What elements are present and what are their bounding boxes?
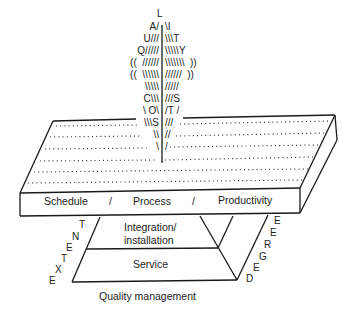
label-process: Process — [133, 196, 171, 207]
degree-letter: G — [259, 252, 267, 262]
extent-letter: N — [72, 232, 79, 242]
ray-row-left: \\\\\ — [145, 82, 159, 92]
slab-back-edge-left — [53, 119, 136, 121]
ray-row-right: ////// )) — [165, 70, 194, 80]
pyramid-base — [72, 280, 237, 282]
label-quality-management: Quality management — [99, 291, 196, 302]
ray-row-left: Q///// — [137, 46, 159, 56]
label-integration: Integration/ — [124, 222, 177, 233]
degree-letter: D — [246, 274, 253, 284]
ray-row-left: A/ — [150, 22, 159, 32]
label-service: Service — [133, 259, 168, 270]
ray-row-right: /T / — [165, 106, 179, 116]
slab-dot-rows — [28, 121, 330, 183]
label-schedule: Schedule — [44, 196, 88, 207]
slab-right-back-vertical — [335, 115, 337, 140]
ray-row-left: \ — [156, 142, 159, 152]
label-productivity: Productivity — [218, 195, 272, 206]
ray-row-right: // — [165, 130, 171, 140]
slab-left-edge — [20, 121, 53, 193]
ray-row-left: \ O\ — [143, 106, 159, 116]
extent-letter: X — [55, 265, 62, 275]
degree-letter: R — [264, 240, 271, 250]
ray-row-right: \\\T — [165, 34, 179, 44]
degree-letter: E — [253, 263, 260, 273]
label-separator: / — [109, 196, 112, 207]
ray-row-left: C\\\ — [143, 94, 159, 104]
pyramid-back-edge — [218, 216, 233, 248]
slab-front-top-edge — [20, 188, 300, 193]
ray-row-right: \I — [165, 22, 171, 32]
label-installation: installation — [124, 235, 174, 246]
ray-row-right: / — [165, 142, 168, 152]
degree-letter: E — [274, 216, 281, 226]
ray-row-right: /// — [165, 118, 173, 128]
ray-row-left: \\\S — [144, 118, 159, 128]
pyramid-divider — [87, 248, 218, 249]
slab-back-edge-right — [183, 115, 335, 118]
ray-row-right: ///S — [165, 94, 180, 104]
label-separator: / — [192, 196, 195, 207]
extent-letter: E — [66, 243, 73, 253]
ray-row-left: \\ — [153, 130, 159, 140]
extent-letter: T — [79, 220, 85, 230]
degree-letter: E — [270, 228, 277, 238]
ray-row-left: U/// — [143, 34, 159, 44]
ray-row-right: \\\\\\\ )) — [165, 58, 197, 68]
ray-row-left: (( \\\\\\ — [130, 70, 159, 80]
extent-letter: T — [61, 254, 67, 264]
ray-top-letter: L — [157, 9, 163, 19]
extent-letter: E — [49, 276, 56, 286]
ray-row-left: (( ////// — [130, 58, 159, 68]
ray-row-right: ///// — [165, 82, 179, 92]
slab-front-bottom — [20, 213, 300, 216]
ray-row-right: \\\\\Y — [165, 46, 186, 56]
